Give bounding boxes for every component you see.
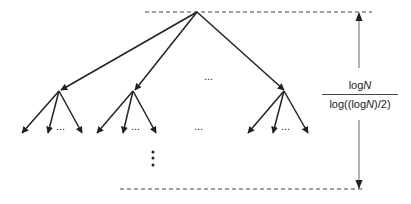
height-label-denominator: log((logN)/2) [322,97,398,111]
height-label: logN log((logN)/2) [322,78,398,111]
leaves-ellipsis-group-3: ... [281,120,290,132]
leaf-edges-group-1 [22,91,82,133]
root-edges [61,12,284,90]
leaves-ellipsis-between: ... [194,120,203,132]
vertical-ellipsis [152,151,155,167]
leaf-edges-group-3 [248,91,308,133]
leaves-ellipsis-group-2: ... [131,120,140,132]
leaf-edges-group-2 [97,91,156,133]
height-label-numerator: logN [322,78,398,92]
level1-ellipsis: ... [204,70,213,82]
leaves-ellipsis-group-1: ... [56,120,65,132]
fraction-bar [322,94,398,95]
